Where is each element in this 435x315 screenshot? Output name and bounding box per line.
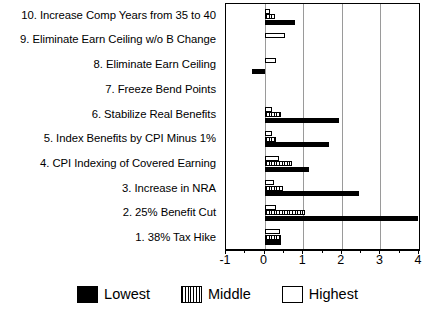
x-axis-minor-tick <box>244 250 245 253</box>
bar-group <box>226 200 419 225</box>
x-axis-minor-tick <box>322 250 323 253</box>
bar-middle <box>265 14 276 19</box>
bar-group <box>226 102 419 127</box>
bar-middle <box>265 137 277 142</box>
category-label: 7. Freeze Bend Points <box>0 77 221 102</box>
bar-group <box>226 4 419 29</box>
x-axis-minor-tick <box>360 250 361 253</box>
legend-label-highest: Highest <box>309 287 358 302</box>
category-label: 9. Eliminate Earn Ceiling w/o B Change <box>0 28 221 53</box>
legend-entry-lowest: Lowest <box>77 286 150 303</box>
chart-legend: Lowest Middle Highest <box>0 281 435 307</box>
category-label: 10. Increase Comp Years from 35 to 40 <box>0 3 221 28</box>
bar-middle <box>265 186 284 191</box>
bar-highest <box>265 229 280 234</box>
bar-group <box>226 225 419 250</box>
bar-middle <box>265 235 282 240</box>
bar-group <box>226 176 419 201</box>
x-axis-minor-tick <box>399 250 400 253</box>
plot-inner <box>226 4 419 249</box>
x-axis-minor-tick <box>283 250 284 253</box>
x-axis-line <box>225 250 420 251</box>
bar-lowest <box>265 191 360 196</box>
category-label: 1. 38% Tax Hike <box>0 225 221 250</box>
bar-highest <box>265 107 273 112</box>
bar-group <box>226 127 419 152</box>
bar-middle <box>265 112 281 117</box>
x-tick-label: 3 <box>376 254 383 267</box>
bar-group <box>226 151 419 176</box>
bar-lowest <box>265 20 295 25</box>
x-tick-label: -1 <box>219 254 230 267</box>
bar-highest <box>265 131 273 136</box>
bar-group <box>226 53 419 78</box>
bar-group <box>226 29 419 54</box>
legend-label-middle: Middle <box>208 287 251 302</box>
bar-highest <box>265 33 285 38</box>
x-tick-label: 1 <box>299 254 306 267</box>
bar-highest <box>265 58 277 63</box>
legend-swatch-middle-icon <box>181 286 202 303</box>
category-label: 2. 25% Benefit Cut <box>0 201 221 226</box>
x-tick-label: 4 <box>415 254 422 267</box>
bar-lowest <box>265 118 339 123</box>
bar-chart: 10. Increase Comp Years from 35 to 40 9.… <box>0 0 435 315</box>
bar-highest <box>265 9 271 14</box>
bar-lowest <box>265 167 309 172</box>
x-axis-tick-labels: -101234 <box>0 254 435 270</box>
bar-highest <box>265 180 275 185</box>
x-tick-label: 2 <box>337 254 344 267</box>
bar-middle <box>265 161 292 166</box>
plot-area <box>225 3 420 250</box>
bar-lowest <box>252 69 264 74</box>
bar-lowest <box>265 240 281 245</box>
legend-swatch-lowest-icon <box>77 286 98 303</box>
bar-lowest <box>265 142 330 147</box>
category-label: 8. Eliminate Earn Ceiling <box>0 52 221 77</box>
bar-highest <box>265 156 280 161</box>
category-axis-labels: 10. Increase Comp Years from 35 to 40 9.… <box>0 3 221 250</box>
x-tick-label: 0 <box>260 254 267 267</box>
legend-entry-highest: Highest <box>282 286 358 303</box>
legend-label-lowest: Lowest <box>104 287 150 302</box>
bar-highest <box>265 205 277 210</box>
bar-lowest <box>265 216 419 221</box>
category-label: 6. Stabilize Real Benefits <box>0 102 221 127</box>
category-label: 4. CPI Indexing of Covered Earning <box>0 151 221 176</box>
bar-group <box>226 78 419 103</box>
category-label: 5. Index Benefits by CPI Minus 1% <box>0 127 221 152</box>
legend-swatch-highest-icon <box>282 286 303 303</box>
category-label: 3. Increase in NRA <box>0 176 221 201</box>
bar-middle <box>265 210 306 215</box>
legend-entry-middle: Middle <box>181 286 251 303</box>
